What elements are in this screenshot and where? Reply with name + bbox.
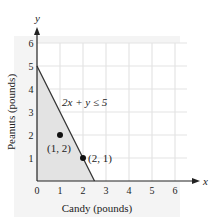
x-axis-title: Candy (pounds) <box>62 202 133 215</box>
x-axis-var: x <box>202 175 208 187</box>
y-axis-title: Peanuts (pounds) <box>5 74 18 150</box>
svg-text:5: 5 <box>150 185 155 196</box>
svg-text:5: 5 <box>29 61 34 72</box>
svg-text:2: 2 <box>29 130 34 141</box>
x-axis-arrow-icon <box>192 178 200 184</box>
svg-text:4: 4 <box>127 185 132 196</box>
svg-text:1: 1 <box>29 153 34 164</box>
svg-text:6: 6 <box>29 38 34 49</box>
svg-text:3: 3 <box>29 107 34 118</box>
point-2-1 <box>80 155 86 161</box>
svg-text:4: 4 <box>29 84 34 95</box>
point-label-1-2: (1, 2) <box>47 142 71 155</box>
svg-text:2: 2 <box>81 185 86 196</box>
svg-text:3: 3 <box>104 185 109 196</box>
point-1-2 <box>57 132 63 138</box>
svg-text:6: 6 <box>173 185 178 196</box>
svg-text:0: 0 <box>35 185 40 196</box>
inequality-label: 2x + y ≤ 5 <box>62 96 108 108</box>
chart: y x 0 1 2 3 4 5 6 1 2 3 4 5 6 Candy (pou… <box>0 0 211 222</box>
y-axis-var: y <box>34 12 40 24</box>
y-axis-arrow-icon <box>34 27 40 35</box>
point-label-2-1: (2, 1) <box>88 152 112 165</box>
svg-text:1: 1 <box>58 185 63 196</box>
